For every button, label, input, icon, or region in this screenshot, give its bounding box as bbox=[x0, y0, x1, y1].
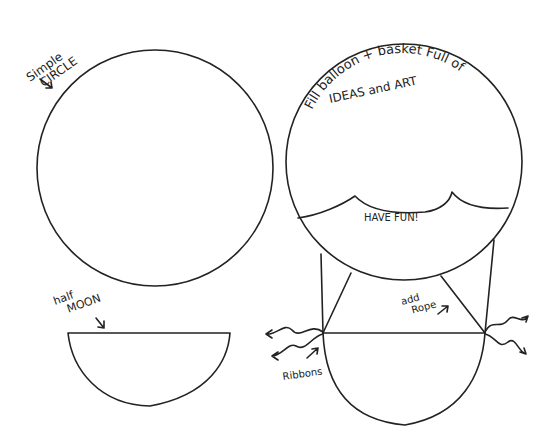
half-moon-shape bbox=[68, 333, 230, 406]
ribbon-left-1 bbox=[266, 328, 323, 338]
rope-right-outer bbox=[485, 240, 494, 333]
ribbons-label: Ribbons bbox=[282, 366, 323, 382]
ribbon-right-1 bbox=[485, 316, 528, 332]
simple-circle bbox=[37, 50, 273, 286]
balloon-text-line2: IDEAS and ART bbox=[328, 74, 419, 106]
half-moon-label: half MOON bbox=[52, 280, 103, 319]
arrow-icon bbox=[96, 318, 104, 328]
ribbon-left-2 bbox=[272, 334, 323, 360]
diagram-canvas: Simple CIRCLE half MOON Fill balloon + b… bbox=[0, 0, 560, 433]
basket-shape bbox=[323, 333, 485, 425]
balloon-text: Fill balloon + basket Full of bbox=[301, 41, 467, 111]
have-fun-label: HAVE FUN! bbox=[364, 212, 419, 223]
rope-right-inner bbox=[441, 276, 485, 333]
add-rope-label: add Rope bbox=[400, 288, 438, 318]
arrow-icon bbox=[307, 348, 318, 358]
rope-left-inner bbox=[323, 273, 351, 333]
arrow-icon bbox=[438, 306, 448, 314]
rope-left-outer bbox=[321, 254, 323, 333]
ribbon-right-2 bbox=[485, 334, 526, 354]
